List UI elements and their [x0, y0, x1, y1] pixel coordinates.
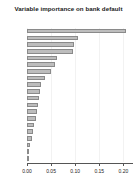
bar	[27, 49, 73, 54]
bar	[27, 143, 30, 148]
x-axis-line	[27, 163, 133, 164]
chart-title: Variable importance on bank default	[0, 5, 137, 13]
bar	[27, 36, 78, 41]
bar-row: v27	[27, 28, 133, 35]
x-axis-tick-label: 0.15	[87, 168, 111, 174]
bar-row: v34	[27, 62, 133, 69]
bar-row: v41	[27, 75, 133, 82]
bar-row: v16	[27, 68, 133, 75]
bar-row: v31	[27, 108, 133, 115]
bar	[27, 129, 33, 134]
bar-row: v17	[27, 88, 133, 95]
plot-area: v27v39v06v40v43v34v16v41v28v17v60v36v31v…	[27, 28, 133, 162]
bar-row: v40	[27, 48, 133, 55]
bar-row: v11	[27, 135, 133, 142]
bar	[27, 109, 37, 114]
bar	[27, 76, 45, 81]
x-axis-tick-label: 0.20	[111, 168, 135, 174]
bar	[27, 69, 51, 74]
bar	[27, 96, 39, 101]
x-axis-tick-mark	[123, 163, 124, 166]
bar-row: v8	[27, 149, 133, 156]
bar-row: v28	[27, 82, 133, 89]
bar	[27, 156, 29, 161]
bar-row: v36	[27, 102, 133, 109]
bar	[27, 123, 34, 128]
bar	[27, 103, 38, 108]
x-axis-tick-label: 0.10	[63, 168, 87, 174]
bar	[27, 116, 36, 121]
bar-row: v06	[27, 41, 133, 48]
x-axis-tick-label: 0.05	[39, 168, 63, 174]
bar-row: v23	[27, 129, 133, 136]
bar	[27, 42, 74, 47]
bar-row: v47	[27, 122, 133, 129]
bar-row: v44	[27, 142, 133, 149]
bar-row: v43	[27, 55, 133, 62]
bar	[27, 149, 29, 154]
variable-importance-chart: Variable importance on bank default v27v…	[0, 0, 137, 188]
bar	[27, 136, 32, 141]
bar	[27, 62, 55, 67]
x-axis-tick-label: 0.00	[15, 168, 39, 174]
x-axis-tick-mark	[75, 163, 76, 166]
bar-row: v60	[27, 95, 133, 102]
bar-row: v10	[27, 115, 133, 122]
bar	[27, 82, 41, 87]
x-axis-tick-mark	[99, 163, 100, 166]
bar	[27, 56, 57, 61]
x-axis-tick-mark	[27, 163, 28, 166]
bar-row: v39	[27, 35, 133, 42]
bar	[27, 29, 126, 34]
bar-row: v13	[27, 155, 133, 162]
x-axis-tick-mark	[51, 163, 52, 166]
bar	[27, 89, 40, 94]
